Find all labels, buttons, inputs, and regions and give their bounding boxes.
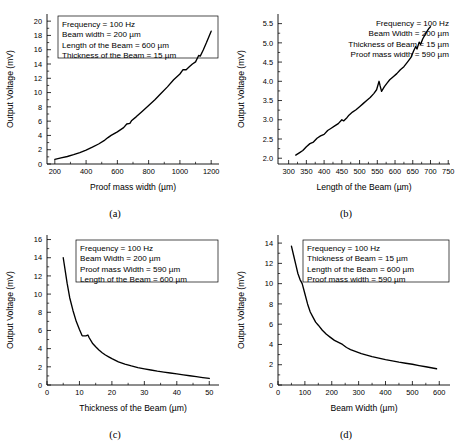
y-tick-label: 0 bbox=[38, 381, 42, 390]
y-tick-label: 20 bbox=[34, 17, 42, 26]
y-tick-label: 12 bbox=[34, 74, 42, 83]
x-tick-label: 300 bbox=[352, 388, 364, 397]
chart-c: 010203040500246810121416Thickness of the… bbox=[0, 221, 230, 442]
y-tick-label: 16 bbox=[34, 235, 42, 244]
annotation-line: Beam Width = 200 µm bbox=[369, 29, 450, 38]
annotation-line: Thickness of Beam = 15 µm bbox=[307, 254, 408, 263]
x-tick-label: 0 bbox=[45, 388, 49, 397]
y-tick-label: 2 bbox=[269, 360, 273, 369]
x-tick-label: 1000 bbox=[172, 167, 188, 176]
x-tick-label: 20 bbox=[108, 388, 116, 397]
subplot-b: 3003504004505005506006507007502.02.53.03… bbox=[231, 0, 461, 221]
x-tick-label: 0 bbox=[276, 388, 280, 397]
x-tick-label: 400 bbox=[379, 388, 391, 397]
annotation-line: Beam Width = 200 µm bbox=[80, 254, 161, 263]
x-tick-label: 200 bbox=[49, 167, 61, 176]
y-tick-label: 10 bbox=[34, 88, 42, 97]
y-tick-label: 6 bbox=[269, 320, 273, 329]
y-tick-label: 3.5 bbox=[263, 96, 273, 105]
annotation-line: Frequency = 100 Hz bbox=[80, 244, 153, 253]
panel-label-b: (b) bbox=[340, 208, 353, 220]
y-tick-label: 12 bbox=[265, 259, 273, 268]
y-tick-label: 2.5 bbox=[263, 135, 273, 144]
annotation-line: Length of the Beam = 600 µm bbox=[62, 41, 169, 50]
x-tick-label: 100 bbox=[299, 388, 311, 397]
panel-label-c: (c) bbox=[109, 429, 121, 441]
x-tick-label: 750 bbox=[442, 167, 454, 176]
x-axis-title: Beam Width (µm) bbox=[330, 403, 397, 413]
x-tick-label: 200 bbox=[326, 388, 338, 397]
x-axis-title: Length of the Beam (µm) bbox=[316, 182, 411, 192]
y-tick-label: 6 bbox=[38, 117, 42, 126]
y-tick-label: 16 bbox=[34, 45, 42, 54]
y-tick-label: 5.0 bbox=[263, 39, 273, 48]
x-tick-label: 30 bbox=[140, 388, 148, 397]
x-tick-label: 40 bbox=[173, 388, 181, 397]
y-tick-label: 12 bbox=[34, 272, 42, 281]
y-tick-label: 3.0 bbox=[263, 115, 273, 124]
annotation-line: Proof mass width = 590 µm bbox=[351, 50, 450, 59]
x-tick-label: 600 bbox=[111, 167, 123, 176]
figure-container: 2004006008001000120002468101214161820Pro… bbox=[0, 0, 461, 443]
y-tick-label: 14 bbox=[265, 239, 273, 248]
y-tick-label: 8 bbox=[269, 300, 273, 309]
y-tick-label: 8 bbox=[38, 308, 42, 317]
x-tick-label: 50 bbox=[205, 388, 213, 397]
y-tick-label: 0 bbox=[38, 160, 42, 169]
y-tick-label: 10 bbox=[34, 290, 42, 299]
panel-label-d: (d) bbox=[340, 429, 353, 441]
y-tick-label: 10 bbox=[265, 279, 273, 288]
y-axis-title: Output Voltage (mV) bbox=[5, 50, 15, 128]
y-tick-label: 8 bbox=[38, 103, 42, 112]
subplot-a: 2004006008001000120002468101214161820Pro… bbox=[0, 0, 230, 221]
y-tick-label: 4.5 bbox=[263, 58, 273, 67]
y-tick-label: 4 bbox=[38, 131, 42, 140]
y-axis-title: Output Voltage (mV) bbox=[5, 271, 15, 349]
annotation-line: Length of the Beam = 600 µm bbox=[80, 275, 187, 284]
y-tick-label: 14 bbox=[34, 60, 42, 69]
x-axis-title: Thickness of the Beam (µm) bbox=[79, 403, 187, 413]
y-tick-label: 4 bbox=[269, 340, 273, 349]
x-tick-label: 800 bbox=[142, 167, 154, 176]
x-tick-label: 550 bbox=[371, 167, 383, 176]
x-tick-label: 600 bbox=[389, 167, 401, 176]
annotation-line: Frequency = 100 Hz bbox=[376, 19, 449, 28]
y-tick-label: 0 bbox=[269, 381, 273, 390]
y-tick-label: 2 bbox=[38, 145, 42, 154]
y-tick-label: 18 bbox=[34, 31, 42, 40]
x-tick-label: 300 bbox=[282, 167, 294, 176]
annotation-line: Frequency = 100 Hz bbox=[307, 244, 380, 253]
x-tick-label: 650 bbox=[407, 167, 419, 176]
y-tick-label: 4.0 bbox=[263, 77, 273, 86]
y-tick-label: 6 bbox=[38, 326, 42, 335]
subplot-d: 010020030040050060002468101214Beam Width… bbox=[231, 221, 461, 442]
x-tick-label: 600 bbox=[433, 388, 445, 397]
y-tick-label: 4 bbox=[38, 344, 42, 353]
chart-a: 2004006008001000120002468101214161820Pro… bbox=[0, 0, 230, 221]
x-tick-label: 400 bbox=[318, 167, 330, 176]
subplot-c: 010203040500246810121416Thickness of the… bbox=[0, 221, 230, 442]
annotation-line: Length of the Beam = 600 µm bbox=[307, 265, 414, 274]
panel-label-a: (a) bbox=[109, 208, 121, 220]
y-tick-label: 5.5 bbox=[263, 19, 273, 28]
y-tick-label: 2 bbox=[38, 363, 42, 372]
y-axis-title: Output Voltage (mV) bbox=[236, 271, 246, 349]
annotation-line: Thickness of the Beam = 15 µm bbox=[62, 51, 176, 60]
x-tick-label: 1200 bbox=[203, 167, 219, 176]
x-tick-label: 500 bbox=[406, 388, 418, 397]
x-tick-label: 10 bbox=[75, 388, 83, 397]
x-tick-label: 400 bbox=[80, 167, 92, 176]
chart-b: 3003504004505005506006507007502.02.53.03… bbox=[231, 0, 461, 221]
annotation-line: Thickness of Beam = 15 µm bbox=[348, 40, 449, 49]
x-tick-label: 700 bbox=[424, 167, 436, 176]
y-axis-title: Output Voltage (mV) bbox=[236, 50, 246, 128]
x-tick-label: 500 bbox=[353, 167, 365, 176]
y-tick-label: 2.0 bbox=[263, 154, 273, 163]
x-axis-title: Proof mass width (µm) bbox=[90, 182, 176, 192]
x-tick-label: 450 bbox=[336, 167, 348, 176]
chart-d: 010020030040050060002468101214Beam Width… bbox=[231, 221, 461, 442]
annotation-line: Beam width = 200 µm bbox=[62, 30, 141, 39]
annotation-line: Proof mass width = 590 µm bbox=[307, 275, 406, 284]
annotation-line: Proof mass Width = 590 µm bbox=[80, 265, 181, 274]
annotation-line: Frequency = 100 Hz bbox=[62, 20, 135, 29]
